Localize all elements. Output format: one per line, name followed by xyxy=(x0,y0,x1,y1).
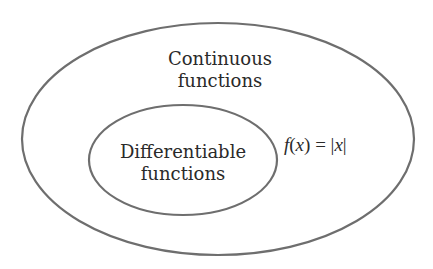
differentiable-functions-label: Differentiable functions xyxy=(108,141,258,185)
differentiable-label-line1: Differentiable xyxy=(108,141,258,163)
continuous-label-line2: functions xyxy=(150,70,290,92)
absolute-value-example: f(x) = |x| xyxy=(284,134,384,156)
continuous-label-line1: Continuous xyxy=(150,48,290,70)
continuous-functions-label: Continuous functions xyxy=(150,48,290,92)
differentiable-label-line2: functions xyxy=(108,163,258,185)
